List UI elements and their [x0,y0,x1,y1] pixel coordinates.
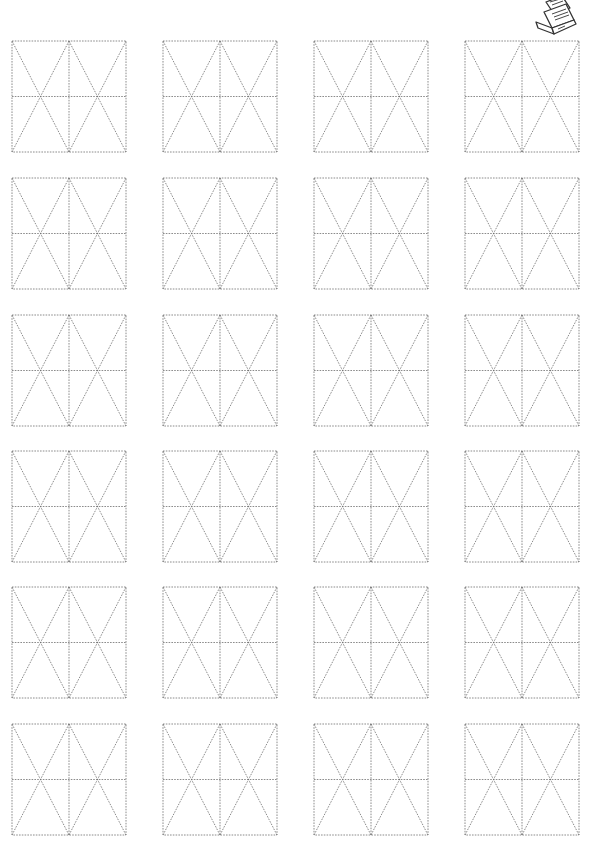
practice-box [163,41,277,152]
practice-box [163,451,277,562]
practice-box [163,724,277,835]
practice-box [465,178,579,289]
practice-box [314,587,428,698]
practice-box [314,724,428,835]
laptop-document-icon [532,0,578,36]
practice-box [12,41,126,152]
practice-box [12,315,126,426]
practice-box [12,178,126,289]
practice-box [314,41,428,152]
practice-box [465,451,579,562]
practice-box [314,451,428,562]
practice-box [12,451,126,562]
practice-box [12,724,126,835]
practice-box [314,178,428,289]
practice-box [465,315,579,426]
practice-box [314,315,428,426]
practice-box [465,41,579,152]
practice-box [465,724,579,835]
practice-box [163,587,277,698]
practice-box [465,587,579,698]
practice-box [12,587,126,698]
practice-box [163,315,277,426]
practice-box [163,178,277,289]
